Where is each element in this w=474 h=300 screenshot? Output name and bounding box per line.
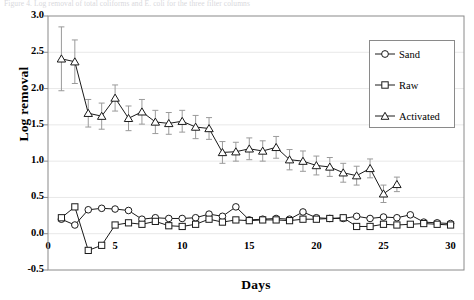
- data-point-marker: [245, 145, 253, 152]
- data-point-marker: [354, 223, 360, 229]
- data-point-marker: [233, 217, 239, 223]
- square-marker-icon: [374, 79, 396, 91]
- data-point-marker: [138, 108, 146, 115]
- data-point-marker: [192, 214, 199, 221]
- data-point-marker: [393, 180, 401, 187]
- data-point-marker: [191, 123, 199, 130]
- data-point-marker: [313, 216, 319, 222]
- data-point-marker: [260, 217, 266, 223]
- legend-label-sand: Sand: [399, 49, 420, 60]
- legend-item-raw[interactable]: Raw: [374, 78, 418, 92]
- data-point-marker: [447, 222, 453, 228]
- data-point-marker: [407, 212, 414, 219]
- data-point-marker: [111, 94, 119, 101]
- legend-label-raw: Raw: [399, 80, 418, 91]
- data-point-marker: [72, 222, 79, 229]
- data-point-marker: [98, 205, 105, 212]
- data-point-marker: [139, 221, 145, 227]
- data-point-marker: [233, 204, 240, 211]
- data-point-marker: [327, 215, 333, 221]
- data-point-marker: [300, 216, 306, 222]
- data-point-marker: [380, 221, 386, 227]
- series-line: [61, 207, 450, 225]
- data-point-marker: [193, 221, 199, 227]
- data-point-marker: [99, 242, 105, 248]
- data-point-marker: [179, 215, 186, 222]
- data-point-marker: [380, 214, 387, 221]
- data-point-marker: [407, 221, 413, 227]
- data-point-marker: [85, 247, 91, 253]
- data-point-marker: [124, 114, 132, 121]
- data-point-marker: [367, 223, 373, 229]
- chart-legend: Sand Raw Activated: [369, 40, 455, 128]
- data-point-marker: [394, 222, 400, 228]
- series-line: [61, 207, 450, 251]
- data-point-marker: [273, 217, 279, 223]
- data-point-marker: [379, 190, 387, 197]
- data-point-marker: [125, 207, 132, 214]
- data-point-marker: [353, 213, 360, 220]
- data-point-marker: [85, 206, 92, 213]
- legend-item-sand[interactable]: Sand: [374, 47, 420, 61]
- data-point-marker: [125, 220, 131, 226]
- data-point-marker: [339, 169, 347, 176]
- legend-label-activated: Activated: [399, 111, 440, 122]
- data-point-marker: [58, 215, 64, 221]
- chart-figure: Figure 4. Log removal of total coliforms…: [0, 0, 474, 300]
- data-point-marker: [219, 219, 225, 225]
- triangle-marker-icon: [374, 110, 396, 122]
- data-point-marker: [312, 162, 320, 169]
- data-point-marker: [206, 216, 212, 222]
- legend-item-activated[interactable]: Activated: [374, 109, 440, 123]
- data-point-marker: [57, 55, 65, 62]
- data-point-marker: [112, 222, 118, 228]
- data-point-marker: [152, 218, 158, 224]
- circle-marker-icon: [374, 48, 396, 60]
- data-point-marker: [300, 209, 307, 216]
- series-activated: [57, 27, 401, 203]
- data-point-marker: [394, 214, 401, 221]
- data-point-marker: [272, 143, 280, 150]
- data-point-marker: [340, 215, 346, 221]
- data-point-marker: [366, 165, 374, 172]
- data-point-marker: [286, 218, 292, 224]
- data-point-marker: [165, 215, 172, 222]
- data-point-marker: [179, 223, 185, 229]
- data-point-marker: [421, 220, 427, 226]
- data-point-marker: [166, 223, 172, 229]
- data-point-marker: [367, 215, 374, 222]
- data-point-marker: [72, 204, 78, 210]
- data-point-marker: [178, 117, 186, 124]
- data-point-marker: [434, 221, 440, 227]
- data-point-marker: [112, 206, 119, 213]
- data-point-marker: [246, 218, 252, 224]
- data-point-marker: [84, 109, 92, 116]
